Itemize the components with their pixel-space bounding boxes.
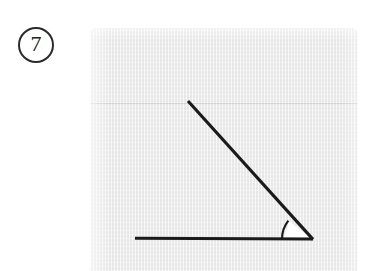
geometry-figure-panel — [90, 28, 358, 271]
screenshot-root: 7 — [0, 0, 372, 271]
angle-diagram — [90, 28, 358, 271]
diagonal-ray — [188, 101, 313, 239]
horizontal-ray — [135, 238, 313, 239]
problem-number-badge: 7 — [18, 27, 54, 63]
problem-number-label: 7 — [31, 33, 42, 55]
